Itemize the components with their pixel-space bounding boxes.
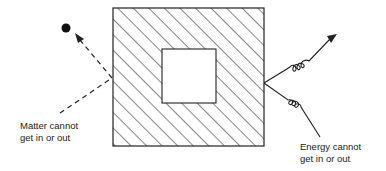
energy-label-line2: get in or out: [300, 153, 361, 165]
arrowhead-icon: [327, 34, 337, 43]
matter-label-line1: Matter cannot: [20, 120, 78, 132]
matter-label: Matter cannot get in or out: [20, 120, 78, 144]
arrowhead-icon: [75, 33, 84, 43]
matter-path: [60, 33, 112, 113]
matter-particle: [62, 24, 71, 33]
energy-label: Energy cannot get in or out: [300, 141, 361, 165]
system-interior: [162, 49, 216, 103]
matter-label-line2: get in or out: [20, 132, 78, 144]
energy-label-line1: Energy cannot: [300, 141, 361, 153]
energy-path: [264, 34, 337, 137]
